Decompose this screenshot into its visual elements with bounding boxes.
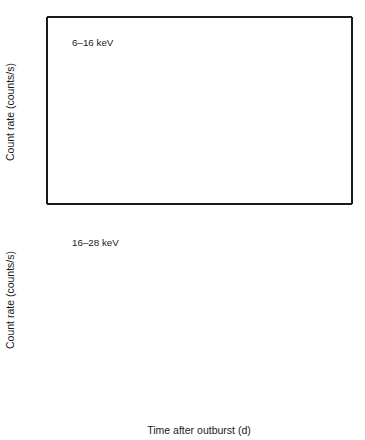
x-axis-title: Time after outburst (d)	[147, 424, 250, 436]
bottom-panel: 16–28 keV	[72, 237, 119, 248]
figure-root: 6–16 keV 16–28 keV Time after outburst (…	[0, 0, 365, 440]
bottom-panel-y-axis-title: Count rate (counts/s)	[4, 251, 16, 349]
figure-background	[0, 0, 365, 440]
top-panel-y-axis-title: Count rate (counts/s)	[4, 63, 16, 161]
light-curve-figure: 6–16 keV 16–28 keV Time after outburst (…	[0, 0, 365, 440]
top-panel-annotation: 6–16 keV	[72, 37, 114, 48]
bottom-panel-annotation: 16–28 keV	[72, 237, 119, 248]
